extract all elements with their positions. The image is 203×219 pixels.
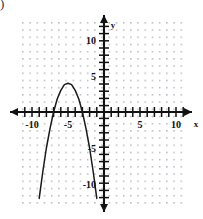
y-tick-label--10: -10 — [83, 179, 96, 190]
coordinate-plane-svg: x y -10 -5 5 10 10 5 -5 -10 — [0, 0, 203, 219]
x-tick-label--5: -5 — [64, 119, 72, 130]
y-tick-label-5: 5 — [91, 71, 96, 82]
y-axis-label: y — [111, 20, 116, 30]
x-tick-label-10: 10 — [171, 119, 181, 130]
x-axis-label: x — [194, 119, 199, 129]
y-tick-label--5: -5 — [88, 143, 96, 154]
y-tick-label-10: 10 — [86, 35, 96, 46]
graph-figure: ) — [0, 0, 203, 219]
x-tick-label-5: 5 — [138, 119, 143, 130]
x-tick-label--10: -10 — [25, 119, 38, 130]
